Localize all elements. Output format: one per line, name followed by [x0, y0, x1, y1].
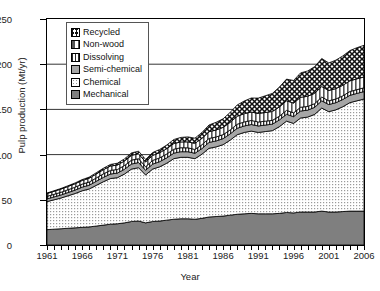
legend-item-non-wood: Non-wood [71, 39, 142, 52]
x-tick-label: 1966 [72, 250, 93, 261]
x-tick-label: 2006 [353, 250, 374, 261]
legend-item-semi-chemical: Semi-chemical [71, 64, 142, 77]
y-axis-label: Pulp production (Mt/yr) [16, 31, 27, 181]
x-tick-label: 1996 [283, 250, 304, 261]
legend-swatch-non-wood [71, 40, 80, 49]
legend-label-semi-chemical: Semi-chemical [83, 65, 142, 74]
x-tick-label: 1986 [213, 250, 234, 261]
x-tick-label: 2001 [318, 250, 339, 261]
legend-swatch-chemical [71, 78, 80, 87]
legend-item-dissolving: Dissolving [71, 51, 142, 64]
x-tick-mark [308, 246, 309, 250]
y-tick-label: 250 [0, 14, 12, 25]
legend-item-mechanical: Mechanical [71, 89, 142, 102]
y-tick-label: 100 [0, 149, 12, 160]
x-tick-label: 1976 [142, 250, 163, 261]
x-axis-label: Year [0, 271, 380, 282]
x-tick-mark [279, 246, 280, 250]
y-tick-label: 50 [1, 194, 12, 205]
x-tick-label: 1961 [36, 250, 57, 261]
legend-item-recycled: Recycled [71, 26, 142, 39]
x-tick-mark [209, 246, 210, 250]
x-tick-mark [350, 246, 351, 250]
legend-label-mechanical: Mechanical [83, 90, 129, 99]
x-tick-mark [315, 246, 316, 250]
legend-swatch-dissolving [71, 53, 80, 62]
x-tick-label: 1991 [248, 250, 269, 261]
y-tick-label: 150 [0, 104, 12, 115]
x-tick-mark [244, 246, 245, 250]
x-tick-mark [174, 246, 175, 250]
y-tick-label: 0 [7, 240, 12, 251]
legend-label-non-wood: Non-wood [83, 40, 124, 49]
y-tick-label: 200 [0, 59, 12, 70]
x-tick-mark [167, 246, 168, 250]
x-tick-mark [132, 246, 133, 250]
legend-label-recycled: Recycled [83, 28, 120, 37]
legend-swatch-mechanical [71, 90, 80, 99]
x-tick-mark [61, 246, 62, 250]
x-tick-mark [103, 246, 104, 250]
chart-root: Pulp production (Mt/yr) Year 05010015020… [0, 0, 380, 291]
chart-legend: Recycled Non-wood Dissolving Semi-chemic… [66, 22, 149, 105]
x-tick-mark [272, 246, 273, 250]
legend-swatch-semi-chemical [71, 65, 80, 74]
x-tick-mark [237, 246, 238, 250]
x-tick-mark [202, 246, 203, 250]
x-tick-mark [139, 246, 140, 250]
x-tick-mark [96, 246, 97, 250]
legend-label-chemical: Chemical [83, 78, 121, 87]
legend-label-dissolving: Dissolving [83, 53, 124, 62]
legend-swatch-recycled [71, 28, 80, 37]
x-tick-mark [68, 246, 69, 250]
x-tick-label: 1981 [177, 250, 198, 261]
legend-item-chemical: Chemical [71, 76, 142, 89]
x-tick-mark [343, 246, 344, 250]
area-series-chemical [47, 99, 364, 230]
x-tick-label: 1971 [107, 250, 128, 261]
